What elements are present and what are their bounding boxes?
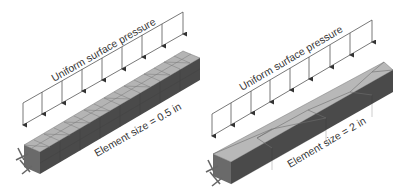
panel-fine-mesh: Uniform surface pressure xyxy=(0,0,207,195)
beam-top-face xyxy=(213,62,393,162)
beam-diagram-fine: Uniform surface pressure xyxy=(0,0,207,195)
panel-coarse-mesh: Uniform surface pressure xyxy=(200,0,413,195)
beam-side-face xyxy=(231,70,393,184)
load-label: Uniform surface pressure xyxy=(49,15,158,84)
load-label: Uniform surface pressure xyxy=(237,22,345,92)
beam-diagram-coarse: Uniform surface pressure xyxy=(200,0,413,195)
